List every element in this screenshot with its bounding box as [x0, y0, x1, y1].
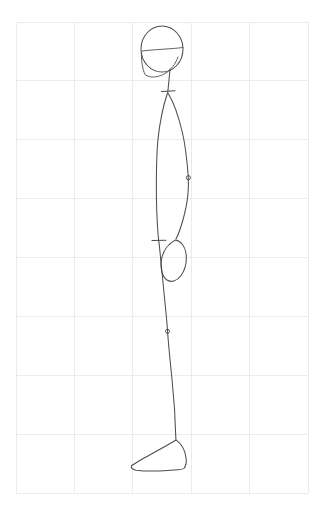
- figure-drawing-svg: [0, 0, 328, 522]
- drawing-canvas: [0, 0, 328, 522]
- paper-background: [0, 0, 328, 522]
- shoulder-tick: [162, 91, 176, 92]
